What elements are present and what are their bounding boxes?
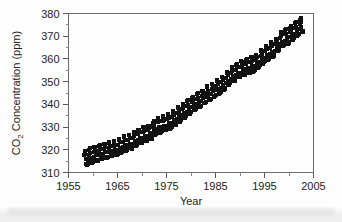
x-tick-label: 2005 [301, 180, 325, 192]
y-tick-label: 330 [41, 121, 59, 133]
y-tick-label: 310 [41, 167, 59, 179]
y-tick-label: 320 [41, 144, 59, 156]
y-tick-label: 380 [41, 8, 59, 20]
y-tick-label: 370 [41, 30, 59, 42]
x-axis-title: Year [180, 195, 203, 207]
x-tick-label: 1975 [154, 180, 178, 192]
figure-canvas: 1955196519751985199520053103203303403503… [0, 0, 342, 222]
x-tick-label: 1985 [203, 180, 227, 192]
y-tick-label: 340 [41, 98, 59, 110]
data-point-markers [82, 16, 305, 166]
x-tick-label: 1965 [105, 180, 129, 192]
y-axis-title: CO2 Concentration (ppm) [10, 31, 25, 155]
y-tick-label: 350 [41, 76, 59, 88]
co2-scatter-chart: 1955196519751985199520053103203303403503… [0, 0, 342, 222]
y-tick-label: 360 [41, 53, 59, 65]
data-points-layer [82, 16, 305, 166]
x-tick-label: 1995 [252, 180, 276, 192]
x-tick-label: 1955 [56, 180, 80, 192]
